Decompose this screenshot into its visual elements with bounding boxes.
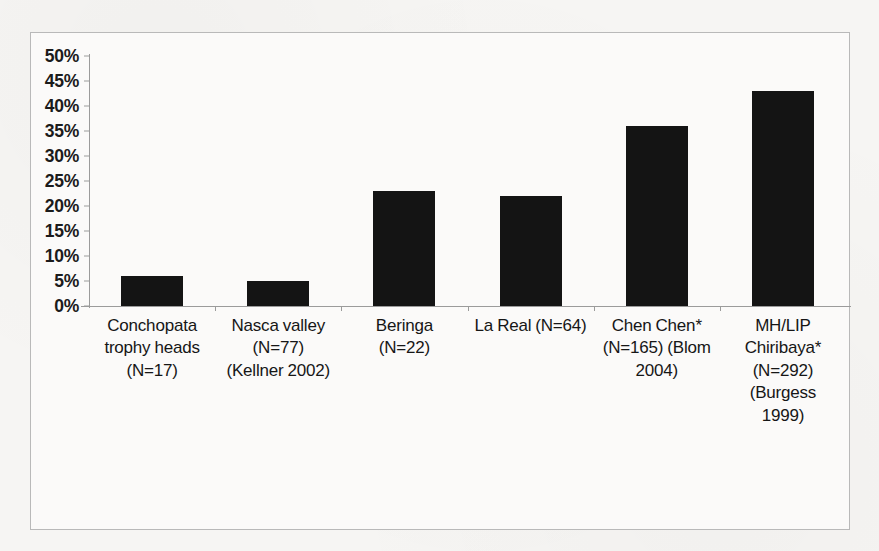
y-axis-tick-label: 30%: [45, 146, 79, 167]
x-axis-category-label-line: Beringa: [341, 315, 467, 337]
bar[interactable]: [373, 191, 435, 306]
bar-slot: [720, 56, 846, 306]
x-axis-category-label-line: (Burgess: [720, 382, 846, 404]
y-axis-tick-label: 15%: [45, 221, 79, 242]
x-axis-tick-mark: [594, 306, 595, 311]
bar[interactable]: [121, 276, 183, 306]
bar-slot: [215, 56, 341, 306]
x-axis-category-label: Beringa(N=22): [341, 315, 467, 360]
x-axis-category-label: Nasca valley(N=77)(Kellner 2002): [215, 315, 341, 382]
x-axis-tick-mark: [720, 306, 721, 311]
x-axis-category-label-line: Chiribaya*: [720, 337, 846, 359]
y-axis-tick-label: 10%: [45, 246, 79, 267]
bar-slot: [89, 56, 215, 306]
y-axis-tick-label: 25%: [45, 171, 79, 192]
x-axis-category-label-line: (N=292): [720, 360, 846, 382]
x-axis-tick-mark: [215, 306, 216, 311]
y-axis-tick-label: 0%: [54, 296, 79, 317]
y-axis-tick-label: 35%: [45, 121, 79, 142]
x-axis-tick-mark: [468, 306, 469, 311]
x-axis-category-label-line: Nasca valley: [215, 315, 341, 337]
bar[interactable]: [626, 126, 688, 306]
x-axis-category-label: La Real (N=64): [468, 315, 594, 337]
y-axis-tick-label: 40%: [45, 96, 79, 117]
x-axis-category-label-line: La Real (N=64): [468, 315, 594, 337]
x-axis-category-label-line: (N=165) (Blom: [594, 337, 720, 359]
bar[interactable]: [500, 196, 562, 306]
plot-area: [89, 56, 846, 306]
y-axis-tick-label: 5%: [54, 271, 79, 292]
y-axis: 50%45%40%35%30%25%20%15%10%5%0%: [31, 56, 89, 306]
x-axis-category-label-line: (N=17): [89, 360, 215, 382]
x-axis-category-label-line: (Kellner 2002): [215, 360, 341, 382]
bar[interactable]: [752, 91, 814, 306]
y-axis-tick-label: 20%: [45, 196, 79, 217]
x-axis-category-label-line: (N=22): [341, 337, 467, 359]
x-axis-category-label: MH/LIPChiribaya*(N=292)(Burgess1999): [720, 315, 846, 427]
bar-slot: [341, 56, 467, 306]
y-axis-tick-label: 45%: [45, 71, 79, 92]
x-axis-category-label: Chen Chen*(N=165) (Blom2004): [594, 315, 720, 382]
x-axis-category-label-line: (N=77): [215, 337, 341, 359]
x-axis-category-labels: Conchopatatrophy heads(N=17)Nasca valley…: [89, 315, 846, 515]
x-axis-line: [81, 306, 851, 307]
x-axis-category-label-line: trophy heads: [89, 337, 215, 359]
x-axis-category-label-line: 1999): [720, 405, 846, 427]
x-axis-category-label-line: MH/LIP: [720, 315, 846, 337]
y-axis-tick-label: 50%: [45, 46, 79, 67]
x-axis-category-label-line: 2004): [594, 360, 720, 382]
x-axis-category-label-line: Conchopata: [89, 315, 215, 337]
bar-slot: [594, 56, 720, 306]
chart-frame: 50%45%40%35%30%25%20%15%10%5%0% Conchopa…: [30, 32, 850, 530]
x-axis-category-label-line: Chen Chen*: [594, 315, 720, 337]
bar-slot: [468, 56, 594, 306]
x-axis-tick-mark: [341, 306, 342, 311]
x-axis-category-label: Conchopatatrophy heads(N=17): [89, 315, 215, 382]
bar[interactable]: [247, 281, 309, 306]
